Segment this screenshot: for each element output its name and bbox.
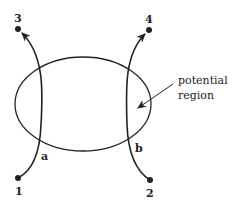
region-label-line2: region	[178, 89, 214, 102]
point-4-label: 4	[145, 13, 153, 26]
point-3-dot	[15, 26, 21, 32]
point-3-label: 3	[14, 12, 22, 25]
potential-region-ellipse	[15, 57, 151, 151]
point-2-dot	[147, 177, 153, 183]
point-2-label: 2	[146, 187, 154, 200]
point-1-label: 1	[15, 185, 23, 198]
point-4-dot	[146, 27, 152, 33]
path-b-label: b	[135, 142, 143, 155]
scattering-diagram: 3 4 1 2 a b potential region	[0, 0, 243, 213]
trajectory-b	[126, 34, 150, 180]
point-1-dot	[15, 175, 21, 181]
region-pointer-arrow	[138, 84, 173, 108]
diagram-svg: 3 4 1 2 a b potential region	[0, 0, 243, 213]
region-label-line1: potential	[178, 74, 228, 87]
trajectory-a	[18, 33, 42, 178]
path-a-label: a	[41, 150, 48, 163]
